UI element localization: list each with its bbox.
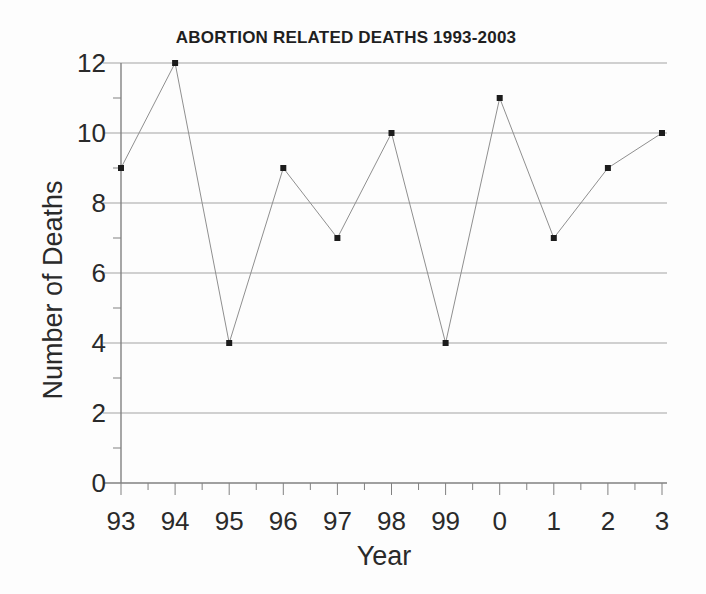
y-tick-label: 6 <box>92 258 106 288</box>
x-tick-label: 1 <box>547 506 561 536</box>
data-point-marker <box>118 165 124 171</box>
y-tick-label: 2 <box>92 398 106 428</box>
data-point-marker <box>280 165 286 171</box>
y-tick-label: 8 <box>92 188 106 218</box>
y-tick-label: 12 <box>77 48 106 78</box>
x-tick-label: 3 <box>655 506 669 536</box>
y-tick-label: 0 <box>92 468 106 498</box>
x-tick-label: 93 <box>107 506 136 536</box>
x-axis-title: Year <box>357 541 412 572</box>
data-point-marker <box>226 340 232 346</box>
data-point-marker <box>389 130 395 136</box>
x-tick-label: 0 <box>492 506 506 536</box>
y-axis-title: Number of Deaths <box>38 180 69 399</box>
x-tick-label: 96 <box>269 506 298 536</box>
data-point-marker <box>659 130 665 136</box>
x-tick-label: 2 <box>601 506 615 536</box>
data-point-marker <box>172 60 178 66</box>
data-point-marker <box>443 340 449 346</box>
data-point-marker <box>497 95 503 101</box>
plot-area: 024681012939495969798990123 <box>0 0 706 594</box>
data-point-marker <box>605 165 611 171</box>
y-tick-label: 10 <box>77 118 106 148</box>
y-tick-label: 4 <box>92 328 106 358</box>
x-tick-label: 95 <box>215 506 244 536</box>
x-tick-label: 98 <box>377 506 406 536</box>
chart-page: ABORTION RELATED DEATHS 1993-2003 024681… <box>0 0 706 594</box>
data-point-marker <box>334 235 340 241</box>
data-point-marker <box>551 235 557 241</box>
x-tick-label: 99 <box>431 506 460 536</box>
x-tick-label: 94 <box>161 506 190 536</box>
x-tick-label: 97 <box>323 506 352 536</box>
